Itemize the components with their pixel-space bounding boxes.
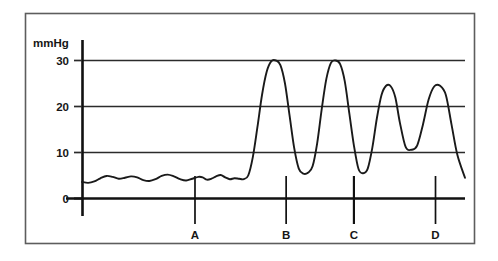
marker-label-a: A [191,229,199,241]
marker-label-d: D [431,229,439,241]
gridlines [82,61,465,153]
figure-container: mmHg 30 20 10 0 A B C D [0,0,498,261]
marker-label-b: B [282,229,290,241]
marker-label-c: C [350,229,358,241]
pressure-waveform-chart: mmHg 30 20 10 0 A B C D [0,0,498,261]
y-axis-unit-label: mmHg [33,37,69,49]
pressure-waveform-trace [82,60,465,183]
figure-border [26,14,475,244]
y-axis-ticks [74,61,82,199]
y-tick-label-10: 10 [56,147,69,159]
y-tick-label-0: 0 [63,193,69,205]
y-tick-label-20: 20 [56,101,69,113]
annotation-markers: A B C D [191,176,440,241]
y-tick-label-30: 30 [56,55,69,67]
